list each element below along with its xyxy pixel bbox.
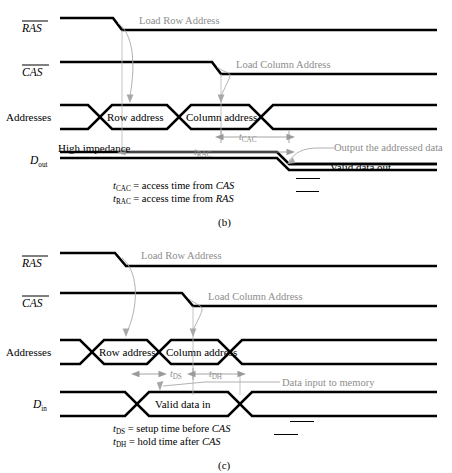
high-impedance-label-b: High impedance (58, 142, 131, 154)
timing-diagram-svg: RAS CAS Addresses Dout Row address Colum… (0, 0, 452, 473)
data-input-pointer-c (163, 382, 280, 386)
tcac-label-b: tCAC (239, 132, 257, 144)
trac-label-b: tRAC (194, 147, 212, 159)
tdh-left-arrowhead-c (187, 371, 196, 377)
tds-left-arrowhead-c (131, 371, 140, 377)
caption-c-line1: tDS = setup time before CAS (113, 423, 231, 436)
din-label-c: Din (32, 398, 47, 413)
caption-b-line1: tCAC = access time from CAS (113, 180, 235, 193)
caption-c-line2: tDH = hold time after CAS (113, 436, 221, 449)
data-input-arrowhead-c (157, 381, 164, 391)
column-address-value-b: Column address (186, 111, 257, 123)
caption-b-line2: tRAC = access time from RAS (113, 193, 234, 206)
tcac-right-arrowhead-b (287, 134, 296, 140)
tdh-label-c: tDH (209, 369, 222, 381)
tdh-right-arrowhead-c (238, 371, 247, 377)
load-column-address-arrowhead-c (190, 329, 197, 338)
valid-data-in-value-c: Valid data in (155, 398, 211, 410)
column-address-value-c: Column address (166, 346, 237, 358)
row-address-value-c: Row address (99, 346, 156, 358)
load-column-address-annotation-c: Load Column Address (208, 291, 303, 302)
panel-b: RAS CAS Addresses Dout Row address Colum… (6, 15, 443, 229)
load-row-address-annotation-c: Load Row Address (141, 250, 222, 261)
ras-label-c: RAS (21, 257, 42, 269)
din-bus-top-c (60, 392, 437, 404)
load-row-address-arrowhead-b (127, 95, 134, 104)
addresses-label-b: Addresses (6, 111, 51, 123)
tds-right-arrowhead-c (159, 371, 168, 377)
cas-label-b: CAS (22, 66, 43, 78)
valid-data-out-value-b: Valid data out (330, 161, 391, 173)
tds-label-c: tDS (170, 369, 182, 381)
load-column-address-arrowhead-b (218, 95, 225, 104)
panel-c: RAS CAS Addresses Din Row address Column… (6, 250, 437, 472)
din-bus-bottom-c (60, 404, 437, 416)
output-data-pointer-b (289, 148, 334, 161)
data-input-to-memory-annotation-c: Data input to memory (282, 377, 375, 388)
row-address-value-b: Row address (107, 111, 164, 123)
load-row-address-arrowhead-c (123, 329, 130, 338)
addresses-label-c: Addresses (6, 346, 51, 358)
output-addressed-data-annotation-b: Output the addressed data (334, 142, 443, 153)
panel-label-b: (b) (218, 216, 231, 229)
cas-label-c: CAS (22, 297, 43, 309)
ras-label-b: RAS (21, 22, 42, 34)
load-column-address-annotation-b: Load Column Address (236, 59, 331, 70)
load-row-address-arrow-b (118, 23, 133, 96)
dout-label-b: Dout (29, 154, 48, 169)
ras-waveform-c (60, 253, 437, 266)
load-row-address-annotation-b: Load Row Address (139, 15, 220, 26)
panel-label-c: (c) (218, 459, 231, 472)
timing-diagram-figure: RAS CAS Addresses Dout Row address Colum… (0, 0, 452, 473)
ras-waveform-b (60, 18, 437, 30)
trac-right-arrowhead-b (287, 149, 296, 155)
tcac-left-arrowhead-b (215, 134, 224, 140)
